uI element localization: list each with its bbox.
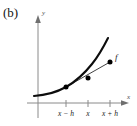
y-axis-arrow-icon [35,15,41,23]
point-x-minus-h [64,85,69,90]
figure-container: (b) y x f x − h x x + h [0,0,137,126]
tick-label-x: x [85,109,90,118]
curve-label: f [115,52,119,62]
tick-label-x-plus-h: x + h [101,109,118,118]
tick-label-x-minus-h: x − h [57,109,74,118]
x-axis-label: x [126,93,131,101]
point-x-plus-h [108,60,113,65]
x-axis-arrow-icon [121,100,129,106]
function-curve [34,38,108,96]
y-axis-label: y [41,9,46,17]
point-x [86,76,91,81]
plot-area: y x f x − h x x + h [0,0,137,126]
